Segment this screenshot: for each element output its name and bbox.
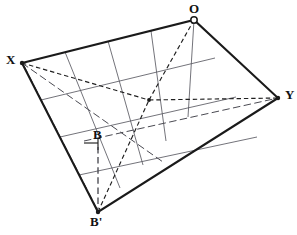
vertex-marker-x [20, 61, 24, 65]
grid-line-b-3 [79, 137, 257, 175]
vertex-label-b: B [93, 128, 102, 141]
grid-line-a-1 [65, 52, 120, 188]
geometry-figure: X O Y B B' [0, 0, 297, 235]
dashed-diagonal-center-y [149, 98, 278, 100]
dashed-diagonal-x-y [22, 63, 149, 100]
vertex-label-x: X [6, 53, 15, 66]
vertex-marker-y [276, 96, 280, 100]
construction-dashed-group [22, 20, 278, 212]
vertex-marker-o [191, 17, 197, 23]
vertex-markers [20, 17, 280, 214]
dashdot-b-to-y [84, 98, 278, 141]
vertex-label-y: Y [285, 88, 294, 101]
geometry-canvas [0, 0, 297, 235]
dashed-diagonal-center-o [149, 20, 194, 100]
grid-line-a-4 [188, 20, 194, 117]
quadrilateral-outline [22, 20, 278, 212]
vertex-label-o: O [189, 2, 199, 15]
dashdot-x-to-lower-right [22, 63, 163, 162]
grid-family-b [41, 58, 257, 175]
vertex-label-b-prime: B' [90, 215, 102, 228]
vertex-marker-center [147, 98, 151, 102]
grid-line-a-2 [108, 41, 143, 165]
